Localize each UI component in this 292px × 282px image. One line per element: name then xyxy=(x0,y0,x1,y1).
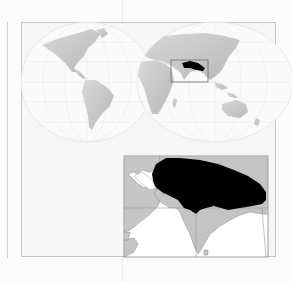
world-map-eastern-hemisphere xyxy=(135,20,292,145)
map-figure xyxy=(0,0,292,282)
inset-map-south-asia xyxy=(124,156,268,257)
world-map-americas xyxy=(20,20,155,145)
